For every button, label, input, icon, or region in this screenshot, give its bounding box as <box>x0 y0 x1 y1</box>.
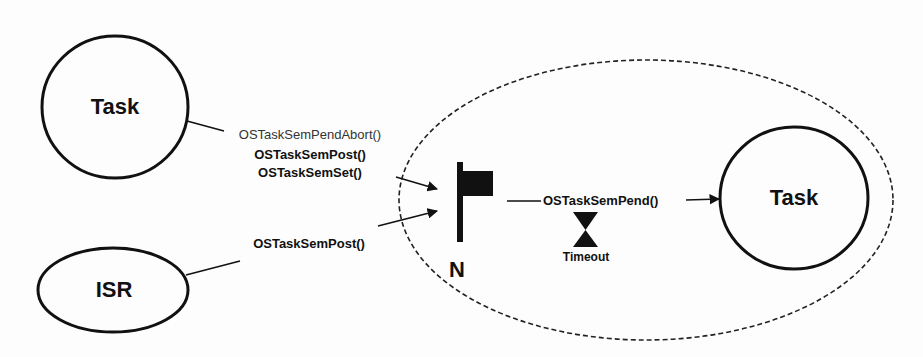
task-left-label: Task <box>91 94 140 120</box>
call-sem-post-task: OSTaskSemPost() <box>254 147 366 162</box>
pend-arrow-right <box>686 199 719 200</box>
isr-to-semaphore-arrow <box>378 211 437 226</box>
diagram-shapes <box>0 0 923 357</box>
semaphore-count-label: N <box>449 257 465 283</box>
isr-label: ISR <box>96 277 133 303</box>
task-left-connector <box>187 121 224 131</box>
flag-icon <box>457 162 493 242</box>
task-right-label: Task <box>770 185 819 211</box>
task-to-semaphore-arrow <box>396 177 437 189</box>
call-pend-abort: OSTaskSemPendAbort() <box>239 127 381 142</box>
diagram-canvas: Task ISR Task OSTaskSemPendAbort() OSTas… <box>0 0 923 357</box>
call-sem-pend: OSTaskSemPend() <box>543 193 658 208</box>
hourglass-icon <box>573 212 598 247</box>
call-sem-set: OSTaskSemSet() <box>258 165 362 180</box>
isr-connector <box>186 261 240 275</box>
timeout-label: Timeout <box>563 250 609 264</box>
call-sem-post-isr: OSTaskSemPost() <box>253 236 365 251</box>
